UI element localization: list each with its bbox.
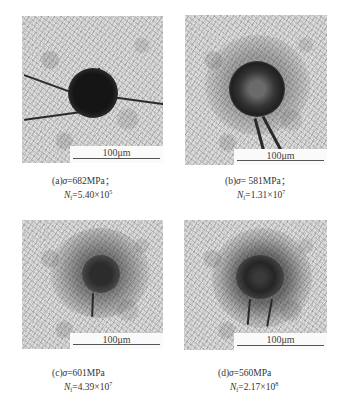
caption-a: (a)σ=682MPa； Nf=5.40×105 bbox=[52, 176, 115, 204]
caption-c-label: (c) bbox=[52, 368, 63, 378]
caption-b: (b)σ= 581MPa； Nf=1.31×107 bbox=[225, 176, 291, 204]
inclusion-spot bbox=[229, 61, 285, 117]
caption-a-stress: =682MPa； bbox=[67, 176, 115, 186]
scale-bar-label: 100μm bbox=[70, 147, 163, 158]
micrograph-a: 100μm bbox=[22, 16, 163, 163]
inclusion-spot bbox=[236, 255, 284, 299]
caption-b-cycles: =1.31×10 bbox=[245, 190, 282, 200]
scale-bar-line bbox=[73, 158, 160, 159]
scale-bar: 100μm bbox=[70, 333, 163, 349]
inclusion-spot bbox=[82, 255, 120, 293]
caption-d-label: (d) bbox=[218, 368, 229, 378]
caption-d: (d)σ=560MPa Nf=2.17×108 bbox=[218, 368, 278, 396]
caption-c-stress: =601MPa bbox=[67, 368, 105, 378]
caption-b-stress: = 581MPa； bbox=[241, 176, 291, 186]
inclusion-spot bbox=[68, 68, 118, 118]
micrograph-b: 100μm bbox=[185, 15, 327, 165]
scale-bar-label: 100μm bbox=[234, 334, 327, 345]
caption-c-cycles: =4.39×10 bbox=[72, 382, 109, 392]
scale-bar: 100μm bbox=[70, 146, 163, 163]
scale-bar: 100μm bbox=[234, 333, 327, 350]
caption-d-stress: =560MPa bbox=[234, 368, 272, 378]
caption-a-label: (a) bbox=[52, 176, 63, 186]
scale-bar-line bbox=[237, 345, 324, 346]
caption-d-cycles: =2.17×10 bbox=[238, 382, 275, 392]
micrograph-d: 100μm bbox=[184, 220, 327, 350]
caption-c: (c)σ=601MPa Nf=4.39×107 bbox=[52, 368, 112, 396]
caption-b-label: (b) bbox=[225, 176, 236, 186]
scale-bar-line bbox=[237, 160, 324, 161]
scale-bar: 100μm bbox=[234, 149, 327, 165]
scale-bar-line bbox=[73, 344, 160, 345]
micrograph-c: 100μm bbox=[22, 220, 163, 349]
caption-a-cycles: =5.40×10 bbox=[72, 190, 109, 200]
